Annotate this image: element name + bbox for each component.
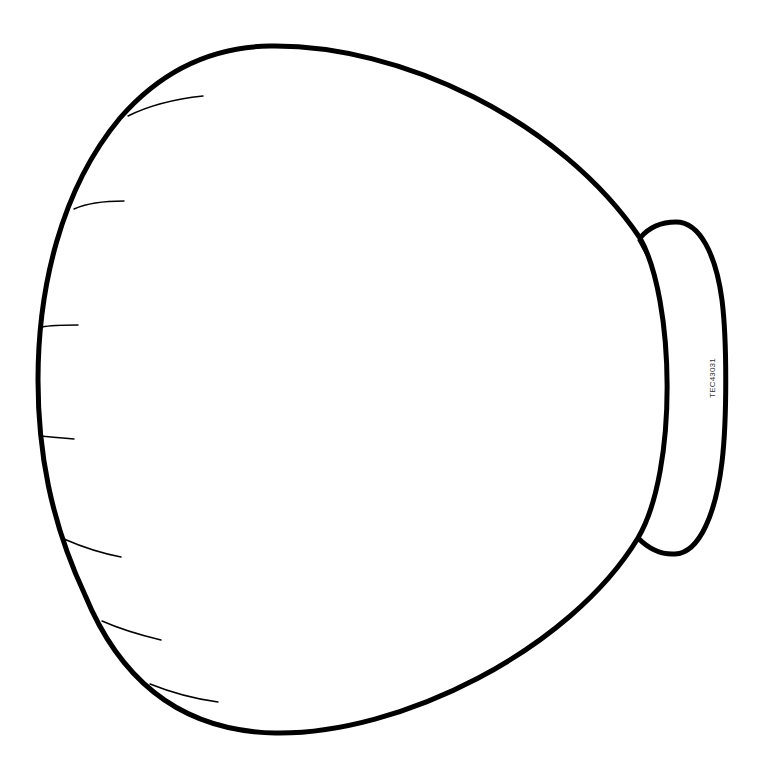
reference-code-label: TEC43031: [708, 358, 717, 398]
main-body-outline: [38, 46, 667, 733]
shape-outline-drawing: [0, 0, 762, 779]
diagram-canvas: TEC43031: [0, 0, 762, 779]
